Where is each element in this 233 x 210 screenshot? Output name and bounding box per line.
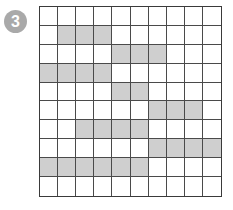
grid-cell <box>203 45 221 64</box>
grid-cell-shaded <box>112 45 130 64</box>
grid-cell <box>185 45 203 64</box>
grid-cell <box>167 7 185 26</box>
grid-cell <box>94 177 112 196</box>
grid-cell-shaded <box>58 26 76 45</box>
grid-cell-shaded <box>203 139 221 158</box>
grid-cell <box>185 64 203 83</box>
grid-cell <box>76 177 94 196</box>
grid-cell <box>58 83 76 102</box>
grid-cell <box>112 26 130 45</box>
grid-cell <box>58 120 76 139</box>
grid-cell <box>40 83 58 102</box>
grid-cell <box>40 120 58 139</box>
grid-cell <box>203 26 221 45</box>
grid-cell-shaded <box>94 120 112 139</box>
grid-cell <box>185 158 203 177</box>
grid-cell <box>76 139 94 158</box>
grid-cell-shaded <box>167 101 185 120</box>
grid-cell-shaded <box>76 158 94 177</box>
grid-cell <box>58 139 76 158</box>
grid-cell-shaded <box>94 158 112 177</box>
grid-cell <box>94 139 112 158</box>
grid-cell <box>58 177 76 196</box>
grid-cell <box>149 64 167 83</box>
grid-cell-shaded <box>58 64 76 83</box>
grid-cell <box>185 120 203 139</box>
grid-cell <box>203 177 221 196</box>
grid-cell-shaded <box>40 64 58 83</box>
grid-cell <box>76 7 94 26</box>
step-number-badge: 3 <box>4 10 27 33</box>
grid-cell <box>94 45 112 64</box>
grid-cell <box>131 177 149 196</box>
grid-cell <box>167 26 185 45</box>
grid-cell-shaded <box>94 26 112 45</box>
grid-cell <box>94 101 112 120</box>
grid-cell <box>131 64 149 83</box>
grid-cell <box>203 101 221 120</box>
grid-cell-shaded <box>149 45 167 64</box>
grid-cell <box>149 83 167 102</box>
grid-cell <box>40 101 58 120</box>
grid-cell <box>112 7 130 26</box>
grid-cell <box>167 120 185 139</box>
grid-cell <box>203 158 221 177</box>
grid-cell <box>185 7 203 26</box>
grid-cell-shaded <box>58 158 76 177</box>
grid-cell <box>149 26 167 45</box>
grid-cell <box>40 45 58 64</box>
grid-cell <box>167 177 185 196</box>
grid-cell <box>167 158 185 177</box>
grid-cell <box>149 158 167 177</box>
grid-cell <box>185 177 203 196</box>
grid-cell <box>112 177 130 196</box>
grid-cell-shaded <box>185 139 203 158</box>
grid-cell <box>149 7 167 26</box>
grid-cell <box>149 177 167 196</box>
grid-cell-shaded <box>94 64 112 83</box>
grid-cell-shaded <box>76 64 94 83</box>
grid-cell <box>40 26 58 45</box>
grid-cell <box>131 7 149 26</box>
grid-cell <box>76 45 94 64</box>
grid-cell <box>58 101 76 120</box>
grid-cell-shaded <box>131 45 149 64</box>
grid-cell <box>185 83 203 102</box>
grid-cell <box>112 139 130 158</box>
grid-cell <box>149 120 167 139</box>
grid-cell <box>131 139 149 158</box>
grid-cell <box>40 7 58 26</box>
grid-cell-shaded <box>149 101 167 120</box>
grid-cell <box>185 26 203 45</box>
grid-cell <box>131 101 149 120</box>
grid-cell <box>203 7 221 26</box>
grid-cell-shaded <box>112 120 130 139</box>
grid-cell-shaded <box>112 83 130 102</box>
grid-cell-shaded <box>112 158 130 177</box>
grid-cell <box>58 7 76 26</box>
grid-cell <box>94 7 112 26</box>
grid-cell <box>76 101 94 120</box>
grid-cell-shaded <box>40 158 58 177</box>
grid-cell <box>131 26 149 45</box>
grid-cell <box>40 177 58 196</box>
grid-cell-shaded <box>185 101 203 120</box>
grid-cell <box>94 83 112 102</box>
grid-cell <box>203 64 221 83</box>
grid-cell-shaded <box>76 26 94 45</box>
grid-cell <box>167 45 185 64</box>
shaded-grid <box>39 6 222 197</box>
grid-cell <box>167 64 185 83</box>
grid-cell <box>112 64 130 83</box>
grid-cell <box>167 83 185 102</box>
grid-cell-shaded <box>76 120 94 139</box>
grid-cell-shaded <box>131 83 149 102</box>
grid-cell <box>40 139 58 158</box>
grid-cell <box>76 83 94 102</box>
grid-cell-shaded <box>167 139 185 158</box>
grid-cell <box>58 45 76 64</box>
grid-cell <box>203 83 221 102</box>
grid-cell-shaded <box>131 120 149 139</box>
grid-cell-shaded <box>149 139 167 158</box>
grid-cell <box>112 101 130 120</box>
